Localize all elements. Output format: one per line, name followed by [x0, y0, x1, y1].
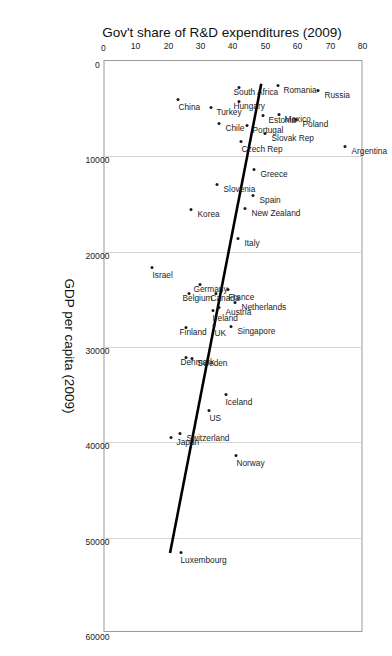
- data-point: China: [176, 98, 179, 101]
- point-marker: [212, 324, 215, 327]
- data-point: Finland: [184, 326, 187, 329]
- y-tick-label: 80: [357, 41, 367, 51]
- point-label: Denmark: [180, 358, 214, 367]
- point-label: Israel: [152, 271, 172, 280]
- x-tick-label: 40000: [85, 441, 109, 451]
- y-tick-label: 50: [260, 41, 270, 51]
- x-tick-label: 20000: [85, 251, 109, 261]
- plot-area: ArgentinaRussiaPolandMexicoRomaniaSlovak…: [103, 60, 362, 632]
- point-label: Spain: [259, 196, 280, 205]
- y-tick-label: 0: [101, 44, 106, 54]
- point-marker: [251, 194, 254, 197]
- data-point: Singapore: [229, 325, 232, 328]
- point-label: Chile: [225, 124, 244, 133]
- data-point: UK: [212, 324, 215, 327]
- data-point: Germany: [198, 283, 201, 286]
- point-marker: [252, 168, 255, 171]
- data-point: Japan: [169, 436, 172, 439]
- data-point: Norway: [234, 454, 237, 457]
- point-marker: [239, 140, 242, 143]
- point-label: Canada: [210, 294, 239, 303]
- data-point: Israel: [150, 266, 153, 269]
- x-tick-label: 0: [95, 60, 100, 70]
- point-marker: [236, 237, 239, 240]
- data-point: South Africa: [237, 86, 240, 89]
- point-marker: [215, 183, 218, 186]
- data-point: Czech Rep: [239, 140, 242, 143]
- point-label: Portugal: [252, 126, 283, 135]
- point-marker: [261, 114, 264, 117]
- point-label: Turkey: [216, 108, 241, 117]
- point-marker: [343, 145, 346, 148]
- point-marker: [245, 124, 248, 127]
- point-marker: [229, 325, 232, 328]
- x-tick-label: 60000: [85, 632, 109, 642]
- point-label: Argentina: [351, 147, 387, 156]
- y-tick-label: 40: [228, 41, 238, 51]
- point-label: Czech Rep: [241, 144, 282, 153]
- point-label: Romania: [283, 86, 316, 95]
- data-point: Denmark: [184, 356, 187, 359]
- point-label: Japan: [176, 438, 199, 447]
- point-label: South Africa: [233, 88, 278, 97]
- y-tick-label: 60: [292, 41, 302, 51]
- data-point: New Zealand: [243, 207, 246, 210]
- y-tick-label: 30: [195, 41, 205, 51]
- data-point: Ireland: [211, 309, 214, 312]
- point-label: Iceland: [225, 398, 252, 407]
- point-marker: [178, 432, 181, 435]
- data-point: Turkey: [209, 106, 212, 109]
- point-label: UK: [214, 328, 226, 337]
- data-point: Hungary: [237, 100, 240, 103]
- data-point: Spain: [251, 194, 254, 197]
- data-point: Luxembourg: [179, 551, 182, 554]
- trend-line: [104, 61, 361, 631]
- data-point: Switzerland: [178, 432, 181, 435]
- data-point: Chile: [217, 122, 220, 125]
- point-marker: [169, 436, 172, 439]
- data-point: Argentina: [343, 145, 346, 148]
- point-label: Russia: [324, 91, 349, 100]
- point-label: Germany: [193, 284, 227, 293]
- point-label: Ireland: [212, 314, 237, 323]
- x-tick-label: 50000: [85, 537, 109, 547]
- x-axis-title: GDP per capita (2009): [61, 60, 76, 632]
- y-tick-label: 10: [131, 41, 141, 51]
- point-label: Singapore: [237, 326, 275, 335]
- point-marker: [176, 98, 179, 101]
- point-label: Finland: [179, 328, 206, 337]
- point-label: Italy: [244, 238, 259, 247]
- point-marker: [243, 207, 246, 210]
- point-marker: [217, 122, 220, 125]
- data-point: Greece: [252, 168, 255, 171]
- point-label: Estonia: [268, 115, 296, 124]
- data-point: Korea: [189, 208, 192, 211]
- data-point: Austria: [217, 306, 220, 309]
- data-point: Iceland: [224, 393, 227, 396]
- point-label: Belgium: [182, 294, 212, 303]
- point-marker: [189, 208, 192, 211]
- point-marker: [209, 106, 212, 109]
- point-label: Slovak Rep: [271, 134, 313, 143]
- data-point: Belgium: [187, 292, 190, 295]
- y-tick-label: 70: [325, 41, 335, 51]
- x-tick-label: 30000: [85, 346, 109, 356]
- data-point: Portugal: [245, 124, 248, 127]
- point-marker: [217, 306, 220, 309]
- point-label: New Zealand: [251, 209, 300, 218]
- data-point: Estonia: [261, 114, 264, 117]
- y-tick-label: 20: [163, 41, 173, 51]
- y-axis-title: Gov't share of R&D expenditures (2009): [12, 25, 392, 40]
- data-point: Italy: [236, 237, 239, 240]
- point-label: China: [178, 102, 200, 111]
- point-label: Korea: [197, 210, 219, 219]
- point-label: US: [209, 414, 221, 423]
- point-label: Slovenia: [223, 185, 255, 194]
- point-label: Greece: [260, 170, 287, 179]
- data-point: Slovenia: [215, 183, 218, 186]
- point-label: Norway: [236, 459, 264, 468]
- point-label: Luxembourg: [180, 556, 226, 565]
- data-point: US: [207, 409, 210, 412]
- x-tick-label: 10000: [85, 155, 109, 165]
